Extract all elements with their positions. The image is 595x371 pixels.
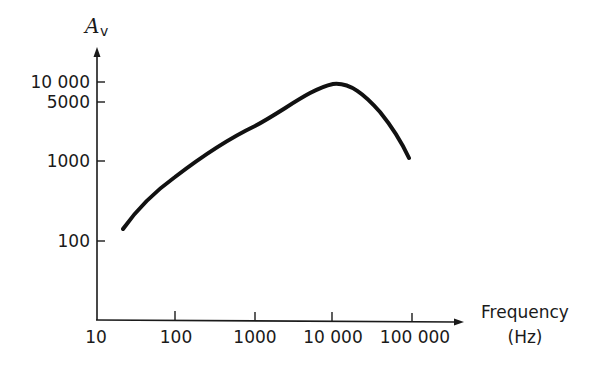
svg-text:A: A xyxy=(83,14,99,38)
y-tick-label: 1000 xyxy=(47,151,90,171)
x-tick-label: 1000 xyxy=(233,327,276,347)
gain-curve xyxy=(123,84,409,229)
x-axis-arrow-icon xyxy=(454,319,464,326)
x-axis-label: Frequency (Hz) xyxy=(481,302,569,347)
svg-text:v: v xyxy=(100,23,108,39)
frequency-response-chart: 10 000 5000 1000 100 10 100 1000 10 000 … xyxy=(0,0,595,371)
y-ticks xyxy=(97,82,105,241)
y-tick-labels: 10 000 5000 1000 100 xyxy=(31,72,90,251)
x-tick-label: 100 000 xyxy=(380,327,450,347)
x-tick-label: 10 000 xyxy=(303,327,362,347)
x-tick-labels: 10 100 1000 10 000 100 000 xyxy=(85,327,450,347)
svg-text:(Hz): (Hz) xyxy=(508,327,543,347)
y-axis-arrow-icon xyxy=(94,47,101,57)
x-tick-label: 100 xyxy=(160,327,192,347)
svg-text:Frequency: Frequency xyxy=(481,302,569,322)
y-tick-label: 5000 xyxy=(47,92,90,112)
y-tick-label: 10 000 xyxy=(31,72,90,92)
x-tick-label: 10 xyxy=(85,327,107,347)
y-axis-label: A v xyxy=(83,14,108,39)
x-axis xyxy=(96,320,455,322)
y-tick-label: 100 xyxy=(58,231,90,251)
